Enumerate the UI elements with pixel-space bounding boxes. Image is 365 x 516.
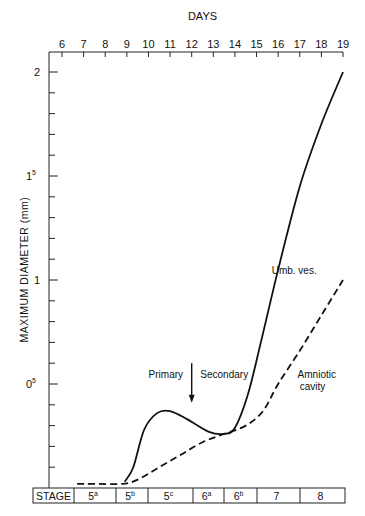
stage-cell: 6b [234,490,244,502]
annotation-label: Primary [149,369,183,380]
day-tick-label: 16 [272,38,284,50]
day-tick-label: 11 [164,38,175,50]
day-tick-label: 7 [81,38,87,50]
stage-header: STAGE [36,490,71,502]
day-tick-label: 19 [337,38,349,50]
annotation-label: Secondary [200,369,248,380]
annotation-label: Amniotic [298,369,336,380]
stage-cell: 6a [202,490,212,502]
stage-cell: 5b [125,490,135,502]
stage-cell: 5c [164,490,174,502]
stage-cell: 8 [318,490,324,502]
stage-row: STAGE5a5b5c6a6b78 [33,488,345,503]
day-tick-label: 18 [315,38,327,50]
y-tick-label: 1 [34,274,40,286]
day-tick-label: 13 [207,38,219,50]
day-tick-label: 6 [59,38,65,50]
day-tick-label: 10 [142,38,154,50]
umb-ves-line [125,72,343,482]
days-axis-title: DAYS [188,10,217,22]
growth-chart: DAYS678910111213141516171819215105MAXIMU… [0,0,365,516]
arrow-head-icon [189,395,195,403]
annotation-label: Umb. ves. [272,265,317,276]
stage-cell: 5a [88,490,98,502]
y-axis-title: MAXIMUM DIAMETER (mm) [18,197,30,343]
day-tick-label: 17 [294,38,306,50]
y-tick-label: 15 [26,169,36,182]
series-lines [77,72,343,484]
day-tick-label: 15 [250,38,262,50]
day-tick-label: 12 [186,38,198,50]
y-tick-label: 2 [34,66,40,78]
stage-cell: 7 [274,490,280,502]
stage-table [33,488,345,503]
day-tick-label: 14 [229,38,241,50]
caption-fragment [100,511,265,516]
y-tick-label: 05 [26,377,36,390]
annotations: PrimarySecondaryUmb. ves.Amnioticcavity [149,265,336,403]
day-tick-label: 8 [102,38,108,50]
annotation-label: cavity [300,381,326,392]
day-tick-label: 9 [124,38,130,50]
